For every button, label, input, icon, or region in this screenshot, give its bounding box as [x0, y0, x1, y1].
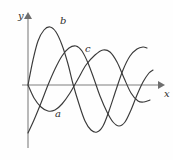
figure-canvas	[0, 0, 173, 160]
x-axis-label: x	[164, 89, 170, 99]
curve-a	[28, 50, 150, 111]
curve-label-c: c	[85, 44, 91, 54]
curve-label-b: b	[60, 16, 66, 26]
y-axis-arrowhead	[24, 12, 32, 19]
math-figure-three-curves: y x a b c	[0, 0, 173, 160]
curve-label-a: a	[55, 109, 61, 119]
y-axis-label: y	[18, 11, 24, 21]
